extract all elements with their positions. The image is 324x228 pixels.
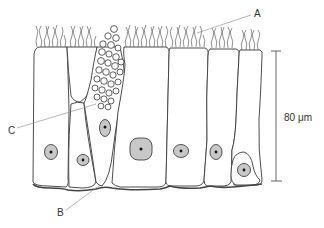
label-a: A [254, 8, 261, 19]
columnar-cell-1 [33, 47, 69, 187]
leader-line-b [66, 185, 100, 210]
cilia [36, 25, 260, 50]
label-b: B [57, 207, 64, 218]
scale-bar [271, 51, 282, 181]
scale-bar-label: 80 μm [284, 112, 312, 123]
columnar-cell-5 [166, 48, 208, 186]
epithelium-diagram: A B C 80 μm [0, 0, 324, 228]
label-c: C [8, 125, 15, 136]
leader-line-a [197, 15, 251, 33]
